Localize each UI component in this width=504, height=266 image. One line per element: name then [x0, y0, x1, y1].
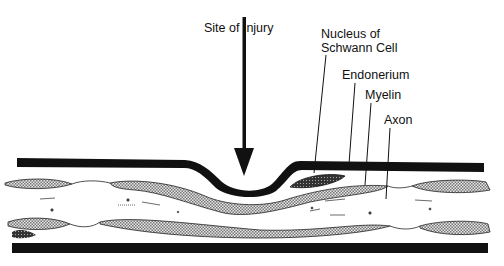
schwann-cell-nucleus [290, 174, 345, 187]
label-nucleus-line2: Schwann Cell [321, 41, 397, 55]
myelin-leader-line [365, 103, 371, 185]
lower-myelin-sheaths [8, 218, 490, 238]
nerve-injury-diagram: Site of Injury Nucleus of Schwann Cell E… [0, 0, 504, 266]
dark-cell-fragment [12, 230, 36, 238]
label-site-of-injury: Site of Injury [204, 21, 273, 35]
endonerium-leader-line [349, 83, 355, 164]
label-myelin: Myelin [365, 88, 401, 102]
nucleus-leader-line [314, 55, 326, 173]
label-endonerium: Endonerium [342, 68, 409, 82]
nerve-illustration [0, 0, 504, 266]
label-nucleus-line1: Nucleus of [321, 27, 380, 41]
label-axon: Axon [384, 113, 413, 127]
injury-arrow-icon [234, 17, 254, 176]
endonerium-top-band [17, 158, 484, 197]
endonerium-bottom-band [12, 243, 488, 253]
